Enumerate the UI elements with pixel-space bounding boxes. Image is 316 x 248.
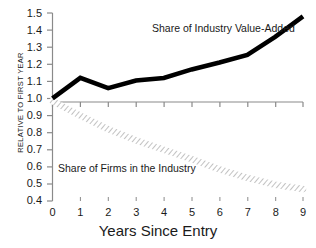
series-line-share-of-firms — [53, 101, 304, 189]
y-axis-title: RELATIVE TO FIRST YEAR — [16, 43, 25, 163]
y-tick-label-0.4: 0.4 — [18, 195, 42, 206]
chart-figure: 1.5 1.4 1.3 1.2 1.1 1.0 0.9 0.8 0.7 0.6 … — [0, 0, 316, 248]
x-axis-title: Years Since Entry — [0, 222, 316, 239]
x-tick-label-1: 1 — [72, 207, 88, 218]
y-tick-label-1.4: 1.4 — [18, 25, 42, 36]
annotation-share-of-firms-in-the-industry: Share of Firms in the Industry — [58, 162, 196, 174]
y-tick-label-0.5: 0.5 — [18, 178, 42, 189]
y-axis-ticks — [47, 13, 53, 201]
x-tick-label-7: 7 — [240, 207, 256, 218]
x-tick-label-5: 5 — [184, 207, 200, 218]
x-tick-label-9: 9 — [295, 207, 311, 218]
x-axis-ticks-on-baseline — [53, 102, 304, 107]
y-tick-label-1.5: 1.5 — [18, 8, 42, 19]
x-axis-ticks-bottom — [53, 197, 304, 201]
x-tick-label-0: 0 — [45, 207, 61, 218]
y-tick-label-0.6: 0.6 — [18, 161, 42, 172]
annotation-share-of-industry-value-added: Share of Industry Value-Added — [152, 22, 295, 34]
x-tick-label-8: 8 — [268, 207, 284, 218]
x-tick-label-6: 6 — [212, 207, 228, 218]
x-tick-label-2: 2 — [100, 207, 116, 218]
x-tick-label-4: 4 — [156, 207, 172, 218]
x-tick-label-3: 3 — [128, 207, 144, 218]
